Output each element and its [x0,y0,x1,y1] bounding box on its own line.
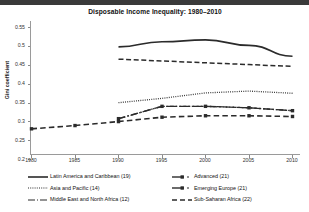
x-tick-label: 1985 [58,158,92,163]
legend-column-left: Latin America and Caribbean (19) Asia an… [28,171,168,206]
legend-swatch-dash-dot [28,196,48,204]
legend-item[interactable]: Sub-Saharan Africa (22) [172,194,309,206]
series-marker [204,105,207,108]
legend-item[interactable]: Latin America and Caribbean (19) [28,171,168,183]
legend-swatch-long-dashed [172,196,192,204]
series-line [119,91,293,103]
series-marker [73,124,76,127]
legend-label: Asia and Pacific (14) [50,186,99,191]
legend-label: Latin America and Caribbean (19) [50,174,131,179]
y-tick-label: 0.5 [5,43,25,48]
x-tick-label: 1990 [101,158,135,163]
legend-label: Emerging Europe (21) [194,186,247,191]
y-tick-label: 0.55 [5,25,25,30]
y-tick-label: 0.45 [5,62,25,67]
legend-swatch-dotted [28,184,48,192]
series-marker [291,115,294,118]
chart-title: Disposable Income Inequality: 1980–2010 [55,8,255,15]
series-marker [247,114,250,117]
series-marker [291,109,294,112]
legend-item[interactable]: Advanced (21) [172,171,309,183]
legend-item[interactable]: Asia and Pacific (14) [28,183,168,195]
legend-item[interactable]: Middle East and North Africa (12) [28,194,168,206]
legend-item[interactable]: Emerging Europe (21) [172,183,309,195]
series-marker [204,114,207,117]
series-marker [160,116,163,119]
chart-legend: Latin America and Caribbean (19) Asia an… [24,171,304,211]
legend-label: Sub-Saharan Africa (22) [194,197,252,202]
series-marker [30,127,33,130]
y-tick-label: 0.25 [5,138,25,143]
y-tick-label: 0.4 [5,81,25,86]
series-marker [160,105,163,108]
series-marker [117,120,120,123]
legend-swatch-dash-dot-marker [172,184,192,192]
plot-area [31,22,299,154]
x-tick-label: 2005 [232,158,266,163]
x-tick-label: 1995 [145,158,179,163]
legend-label: Advanced (21) [194,174,229,179]
x-tick-label: 2010 [275,158,309,163]
legend-column-right: Advanced (21) Emerging Europe (21) Sub-S… [172,171,309,206]
legend-swatch-dashed-marker [172,173,192,181]
series-marker [117,117,120,120]
y-tick-label: 0.3 [5,119,25,124]
x-axis-line [30,154,300,155]
series-line [119,40,293,56]
x-tick-label: 1980 [14,158,48,163]
chart-figure: Disposable Income Inequality: 1980–2010 … [0,5,309,212]
series-lines [30,40,294,131]
x-tick-label: 2000 [188,158,222,163]
series-marker [247,106,250,109]
y-tick-label: 0.35 [5,100,25,105]
legend-label: Middle East and North Africa (12) [50,197,129,202]
legend-swatch-solid [28,173,48,181]
series-line [119,59,293,66]
